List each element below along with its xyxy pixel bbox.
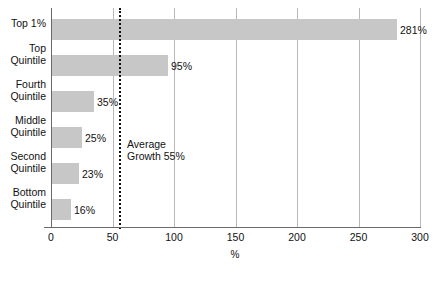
gridline-50: [113, 8, 114, 227]
annotation-line: Average: [127, 138, 185, 150]
xtick-label-100: 100: [165, 231, 183, 243]
bar-second-quintile: [51, 163, 79, 184]
category-label-line: Top 1%: [0, 18, 46, 30]
x-axis-title: %: [231, 249, 240, 260]
category-label-line: Quintile: [0, 91, 46, 103]
category-label-top-1-percent: Top 1%: [0, 18, 46, 30]
gridline-250: [359, 8, 360, 227]
gridline-150: [236, 8, 237, 227]
y-axis-line: [51, 8, 52, 228]
bar-value-label: 23%: [82, 168, 103, 179]
category-label-line: Second: [0, 151, 46, 163]
category-label-second-quintile: Second Quintile: [0, 151, 46, 174]
category-axis-labels: Top 1% Top Quintile Fourth Quintile Midd…: [0, 8, 46, 227]
bar-bottom-quintile: [51, 199, 71, 220]
category-label-bottom-quintile: Bottom Quintile: [0, 187, 46, 210]
xtick-label-300: 300: [411, 231, 429, 243]
category-label-middle-quintile: Middle Quintile: [0, 115, 46, 138]
category-label-line: Quintile: [0, 55, 46, 67]
bar-value-label: 281%: [400, 24, 427, 35]
gridline-200: [297, 8, 298, 227]
category-label-line: Middle: [0, 115, 46, 127]
xtick-label-150: 150: [227, 231, 245, 243]
category-label-line: Quintile: [0, 127, 46, 139]
category-label-top-quintile: Top Quintile: [0, 43, 46, 66]
category-label-line: Fourth: [0, 79, 46, 91]
xtick-label-0: 0: [48, 231, 54, 243]
bar-value-label: 35%: [97, 96, 118, 107]
category-label-line: Bottom: [0, 187, 46, 199]
bar-fourth-quintile: [51, 91, 94, 112]
category-label-fourth-quintile: Fourth Quintile: [0, 79, 46, 102]
bar-value-label: 16%: [74, 204, 95, 215]
xtick-label-50: 50: [107, 231, 119, 243]
bar-value-label: 95%: [171, 60, 192, 71]
bar-middle-quintile: [51, 127, 82, 148]
category-label-line: Quintile: [0, 199, 46, 211]
gridline-300: [420, 8, 421, 227]
plot-area: 281% 95% 35% 25% 23% 16%: [51, 8, 420, 227]
average-growth-reference-line: [119, 8, 121, 229]
average-growth-annotation: Average Growth 55%: [127, 138, 185, 162]
gridline-100: [174, 8, 175, 227]
category-label-line: Quintile: [0, 163, 46, 175]
annotation-line: Growth 55%: [127, 150, 185, 162]
bar-chart: Top 1% Top Quintile Fourth Quintile Midd…: [0, 0, 435, 282]
xtick-label-250: 250: [350, 231, 368, 243]
bar-value-label: 25%: [85, 132, 106, 143]
bar-top-1-percent: [51, 19, 397, 40]
category-label-line: Top: [0, 43, 46, 55]
bar-top-quintile: [51, 55, 168, 76]
xtick-label-200: 200: [288, 231, 306, 243]
x-axis-line: [44, 227, 421, 228]
